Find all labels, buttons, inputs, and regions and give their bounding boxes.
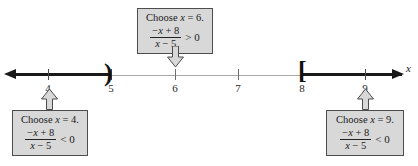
callout-box-x-4: Choose x = 4. −x + 8 x − 5 < 0 — [12, 110, 88, 156]
callout-right-title: Choose x = 9. — [332, 114, 398, 126]
callout-left-inequality: −x + 8 x − 5 < 0 — [18, 127, 82, 151]
callout-right-title-prefix: Choose — [336, 114, 370, 125]
callout-right-inequality: −x + 8 x − 5 < 0 — [332, 127, 398, 151]
callout-right-fraction: −x + 8 x − 5 — [340, 127, 371, 151]
numerator-rest: + 8 — [163, 25, 179, 36]
callout-left-title: Choose x = 4. — [18, 114, 82, 126]
callout-left-title-suffix: = 4. — [60, 114, 79, 125]
callout-right-numerator: −x + 8 — [340, 127, 371, 138]
shaded-region-right — [302, 73, 402, 76]
tick-label-6: 6 — [165, 82, 185, 94]
callout-pointer-down-icon — [167, 46, 184, 68]
closed-interval-bracket-at-8: [ — [298, 58, 307, 84]
callout-top-title-suffix: = 6. — [185, 12, 204, 23]
callout-pointer-up-left-icon — [41, 88, 58, 110]
callout-pointer-up-right-icon — [357, 88, 374, 110]
callout-right-title-suffix: = 9. — [375, 114, 394, 125]
denominator-rest: − 5 — [350, 140, 366, 151]
right-arrowhead-icon — [392, 69, 404, 79]
callout-left-numerator: −x + 8 — [25, 127, 56, 138]
tick-label-7: 7 — [228, 82, 248, 94]
open-interval-bracket-at-5: ) — [104, 60, 113, 86]
shaded-region-left — [14, 73, 112, 76]
numerator-rest: + 8 — [38, 127, 54, 138]
tick-7 — [238, 69, 239, 80]
number-line-figure: x 4 5 6 7 8 9 ) [ Choose x = 6. −x + 8 x… — [0, 0, 418, 166]
callout-top-numerator: −x + 8 — [150, 25, 181, 36]
denominator-rest: − 5 — [35, 140, 51, 151]
callout-top-title: Choose x = 6. — [143, 12, 207, 24]
callout-left-denominator: x − 5 — [28, 140, 53, 151]
tick-4 — [48, 69, 49, 80]
axis-line-middle — [110, 75, 304, 76]
callout-top-relation: > 0 — [184, 31, 199, 44]
tick-6 — [175, 69, 176, 80]
callout-box-x-9: Choose x = 9. −x + 8 x − 5 < 0 — [326, 110, 404, 156]
axis-label-x: x — [406, 62, 411, 74]
callout-right-relation: < 0 — [374, 133, 389, 146]
callout-top-title-prefix: Choose — [146, 12, 180, 23]
callout-right-denominator: x − 5 — [343, 140, 368, 151]
numerator-rest: + 8 — [353, 127, 369, 138]
callout-left-title-prefix: Choose — [21, 114, 55, 125]
tick-9 — [365, 69, 366, 80]
callout-left-relation: < 0 — [59, 133, 74, 146]
callout-left-fraction: −x + 8 x − 5 — [25, 127, 56, 151]
